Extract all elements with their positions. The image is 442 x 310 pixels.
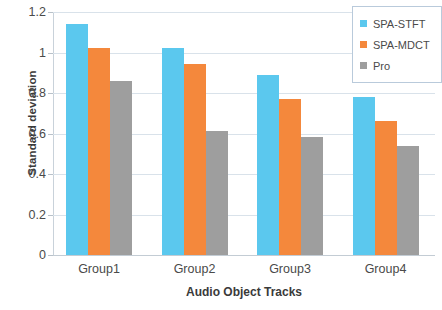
bar-spa-mdct-group4 (375, 121, 397, 255)
legend-swatch-icon (360, 20, 367, 27)
chart-legend: SPA-STFTSPA-MDCTPro (352, 6, 442, 83)
y-tick-mark (48, 93, 53, 94)
x-tick-label-group4: Group4 (365, 262, 407, 276)
legend-item[interactable]: SPA-STFT (360, 13, 441, 34)
x-axis-title: Audio Object Tracks (53, 285, 435, 299)
legend-swatch-icon (360, 62, 367, 69)
x-tick-label-group3: Group3 (269, 262, 311, 276)
bar-spa-mdct-group3 (279, 99, 301, 255)
bar-pro-group3 (301, 137, 323, 255)
y-tick-label: 0.2 (29, 208, 46, 222)
legend-label: Pro (373, 60, 390, 72)
legend-label: SPA-STFT (373, 18, 425, 30)
x-tick-label-group2: Group2 (174, 262, 216, 276)
y-tick-mark (48, 255, 53, 256)
bar-spa-mdct-group2 (184, 64, 206, 255)
bar-spa-stft-group2 (162, 48, 184, 255)
y-tick-mark (48, 12, 53, 13)
gridline (53, 255, 435, 256)
bar-pro-group2 (206, 131, 228, 255)
y-tick-label: 1 (39, 46, 46, 60)
bar-spa-stft-group4 (353, 97, 375, 255)
y-tick-label: 0 (39, 248, 46, 262)
legend-item[interactable]: SPA-MDCT (360, 34, 441, 55)
legend-swatch-icon (360, 41, 367, 48)
y-tick-label: 1.2 (29, 5, 46, 19)
y-tick-label: 0.6 (29, 127, 46, 141)
y-tick-mark (48, 215, 53, 216)
bar-spa-mdct-group1 (88, 48, 110, 255)
bar-spa-stft-group1 (66, 24, 88, 255)
y-tick-label: 0.8 (29, 86, 46, 100)
y-tick-mark (48, 53, 53, 54)
y-tick-mark (48, 134, 53, 135)
bar-pro-group4 (397, 146, 419, 255)
bar-pro-group1 (110, 81, 132, 255)
y-tick-mark (48, 174, 53, 175)
y-tick-label: 0.4 (29, 167, 46, 181)
bar-spa-stft-group3 (257, 75, 279, 255)
x-tick-label-group1: Group1 (78, 262, 120, 276)
y-axis-title: Standard deviation (26, 33, 38, 213)
legend-label: SPA-MDCT (373, 39, 430, 51)
legend-item[interactable]: Pro (360, 55, 441, 76)
